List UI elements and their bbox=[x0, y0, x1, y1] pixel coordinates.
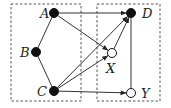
graph-nodes bbox=[32, 9, 136, 98]
causal-graph-diagram: ABCDXY bbox=[0, 0, 171, 108]
node-label-B: B bbox=[19, 45, 30, 60]
graph-edges bbox=[38, 13, 131, 93]
edge-A-X bbox=[58, 16, 109, 51]
node-label-X: X bbox=[105, 61, 116, 76]
node-label-C: C bbox=[37, 84, 47, 99]
edge-C-D bbox=[57, 16, 128, 88]
node-C bbox=[50, 87, 59, 96]
node-D bbox=[127, 9, 136, 18]
edge-C-Y bbox=[58, 91, 126, 93]
edge-C-X bbox=[58, 55, 108, 88]
node-A bbox=[50, 9, 59, 18]
node-label-Y: Y bbox=[141, 86, 151, 101]
edge-A-B bbox=[38, 17, 52, 48]
edge-X-D bbox=[114, 17, 129, 49]
node-Y bbox=[127, 89, 136, 98]
node-label-A: A bbox=[39, 6, 49, 21]
node-X bbox=[108, 49, 117, 58]
node-label-D: D bbox=[141, 6, 153, 21]
edge-B-C bbox=[38, 56, 52, 87]
node-B bbox=[32, 48, 41, 57]
